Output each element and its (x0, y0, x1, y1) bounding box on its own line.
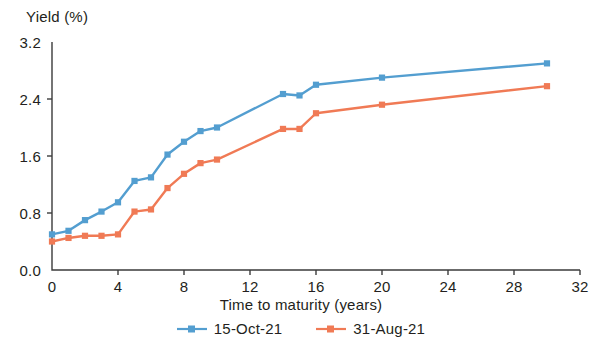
data-point-marker (115, 199, 121, 205)
data-point-marker (197, 128, 203, 134)
data-point-marker (98, 233, 104, 239)
y-tick-label: 3.2 (20, 34, 41, 51)
data-point-marker (280, 91, 286, 97)
legend-label-0: 15-Oct-21 (214, 320, 283, 337)
legend-item-1[interactable]: 31-Aug-21 (316, 320, 425, 337)
axis-lines (52, 42, 580, 270)
data-point-marker (49, 238, 55, 244)
data-point-marker (296, 92, 302, 98)
y-tick-label: 0.0 (20, 262, 41, 279)
series-line (52, 63, 547, 234)
data-point-marker (164, 151, 170, 157)
data-point-marker (379, 102, 385, 108)
x-tick-label: 32 (571, 278, 588, 295)
legend-item-0[interactable]: 15-Oct-21 (177, 320, 283, 337)
data-point-marker (115, 231, 121, 237)
x-tick-label: 24 (439, 278, 456, 295)
series-1 (49, 83, 550, 245)
data-point-marker (131, 178, 137, 184)
y-tick-label: 0.8 (20, 205, 41, 222)
data-point-marker (313, 82, 319, 88)
data-point-marker (181, 171, 187, 177)
legend-marker-icon-1 (316, 323, 346, 335)
plot-area: 0.00.81.62.43.2048121620242832 (0, 0, 602, 346)
data-point-marker (82, 233, 88, 239)
x-tick-label: 20 (373, 278, 390, 295)
data-point-marker (65, 228, 71, 234)
data-point-marker (544, 83, 550, 89)
y-tick-label: 1.6 (20, 148, 41, 165)
x-tick-label: 28 (505, 278, 522, 295)
data-point-marker (65, 235, 71, 241)
data-point-marker (98, 208, 104, 214)
legend-marker-icon-0 (177, 323, 207, 335)
x-tick-label: 8 (180, 278, 189, 295)
series-0 (49, 60, 550, 237)
data-point-marker (148, 206, 154, 212)
data-point-marker (82, 217, 88, 223)
data-point-marker (296, 126, 302, 132)
data-point-marker (379, 75, 385, 81)
data-point-marker (49, 231, 55, 237)
data-point-marker (131, 208, 137, 214)
x-tick-label: 16 (307, 278, 324, 295)
data-point-marker (313, 110, 319, 116)
data-point-marker (164, 185, 170, 191)
x-tick-label: 12 (241, 278, 258, 295)
x-tick-label: 0 (48, 278, 57, 295)
data-point-marker (148, 174, 154, 180)
data-point-marker (544, 60, 550, 66)
yield-curve-chart: Yield (%) 0.00.81.62.43.2048121620242832… (0, 0, 602, 346)
data-point-marker (181, 139, 187, 145)
series-line (52, 86, 547, 241)
x-tick-label: 4 (114, 278, 123, 295)
data-point-marker (197, 160, 203, 166)
data-point-marker (214, 124, 220, 130)
legend-label-1: 31-Aug-21 (353, 320, 425, 337)
data-point-marker (280, 126, 286, 132)
data-point-marker (214, 156, 220, 162)
legend: 15-Oct-21 31-Aug-21 (0, 320, 602, 337)
y-tick-label: 2.4 (20, 91, 41, 108)
x-axis-title: Time to maturity (years) (0, 296, 602, 313)
